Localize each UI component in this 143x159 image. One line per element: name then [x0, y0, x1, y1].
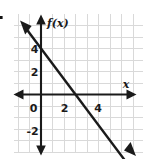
x-tick-label-4: 4: [94, 102, 102, 115]
y-axis-label-fx: f(x): [46, 17, 69, 30]
x-axis-label-x: x: [122, 78, 130, 91]
y-tick-label-4: 4: [31, 43, 39, 56]
bullet-marker-icon: [0, 16, 3, 19]
y-tick-label-2: 2: [31, 66, 39, 79]
graph-figure: 0 2 4 4 2 -2 f(x) x: [0, 0, 143, 159]
x-tick-label-0: 0: [30, 102, 38, 115]
y-tick-label-neg-2: -2: [26, 125, 38, 138]
coordinate-plane-chart: 0 2 4 4 2 -2 f(x) x: [0, 0, 143, 159]
x-tick-label-2: 2: [61, 102, 69, 115]
